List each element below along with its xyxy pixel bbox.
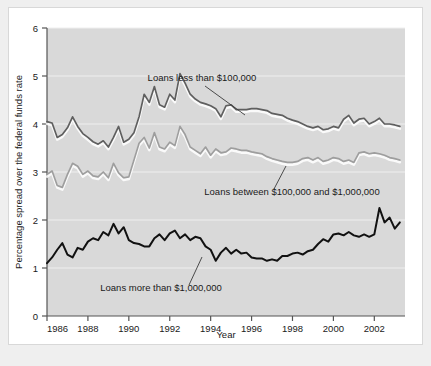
y-tick-label-0: 0 [33, 311, 38, 322]
y-tick-label-6: 6 [33, 23, 38, 34]
x-tick-label-1996: 1996 [241, 323, 262, 334]
figure-card: 0123456 19861988199019921994199619982000… [8, 7, 423, 345]
y-tick-label-3: 3 [33, 167, 38, 178]
y-tick-label-2: 2 [33, 215, 38, 226]
annotation-label-2: Loans more than $1,000,000 [100, 282, 221, 293]
x-tick-label-2002: 2002 [364, 323, 385, 334]
y-tick-group: 0123456 [33, 23, 47, 322]
x-tick-label-1992: 1992 [159, 323, 180, 334]
y-tick-label-1: 1 [33, 263, 38, 274]
page-root: 0123456 19861988199019921994199619982000… [0, 0, 431, 366]
y-tick-label-4: 4 [33, 119, 38, 130]
annotation-label-0: Loans less than $100,000 [148, 72, 257, 83]
line-chart: 0123456 19861988199019921994199619982000… [9, 8, 422, 344]
x-axis-title: Year [216, 329, 235, 340]
x-tick-label-1988: 1988 [77, 323, 98, 334]
x-tick-label-1998: 1998 [282, 323, 303, 334]
x-tick-label-1986: 1986 [47, 323, 68, 334]
y-tick-label-5: 5 [33, 71, 38, 82]
y-axis-title: Percentage spread over the federal funds… [13, 75, 24, 269]
annotation-label-1: Loans between $100,000 and $1,000,000 [204, 186, 379, 197]
x-tick-label-1990: 1990 [118, 323, 139, 334]
x-tick-label-2000: 2000 [323, 323, 344, 334]
